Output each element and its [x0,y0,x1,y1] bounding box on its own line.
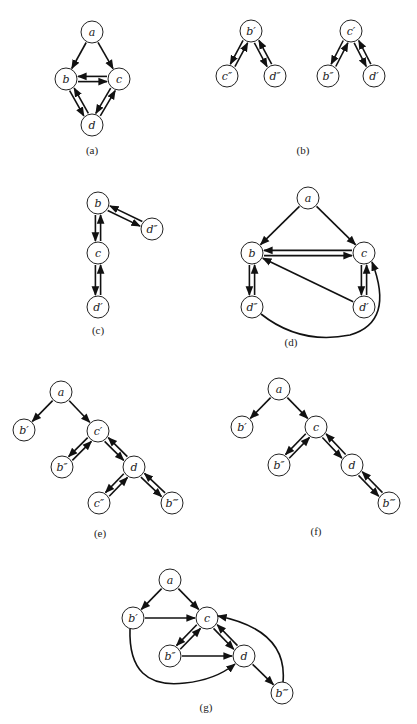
node-label: c [204,612,210,625]
node-label: b′ [19,424,29,437]
node-d1: d′ [87,296,109,318]
node-a: a [268,378,290,400]
node-b2: b″ [159,645,181,667]
edge-a-to-c [98,42,113,68]
edge-d1-to-b [263,258,353,302]
panel-d: abcd″d′(d) [241,187,380,349]
panel-caption: (g) [200,701,213,714]
node-c1: c′ [340,20,362,42]
edge-d-to-b [74,88,88,113]
node-d: d [233,645,255,667]
node-d: d [341,454,363,476]
node-d1: d′ [353,296,375,318]
node-c: c [196,607,218,629]
node-b2: b″ [51,456,73,478]
panel-caption: (e) [94,527,107,540]
edge-c1-to-b2 [331,41,343,65]
panel-caption: (a) [86,144,99,157]
node-c2: c″ [88,492,110,514]
node-label: a [305,192,312,205]
edge-b2-to-c1 [336,43,348,67]
node-label: d″ [246,301,258,314]
panel-caption: (d) [285,336,298,349]
node-label: d″ [269,70,281,83]
node-b3: b‴ [378,492,400,514]
edge-a-to-c1 [69,401,89,423]
edges [130,589,283,685]
node-d: d [123,456,145,478]
panel-g: ab′cb″db‴(g) [122,569,293,714]
node-d2: d″ [141,218,163,240]
node-b2: b″ [317,65,339,87]
panel-caption: (c) [92,324,105,337]
edge-c2-to-b1 [235,43,248,67]
node-label: b″ [164,650,176,663]
node-label: b‴ [383,497,396,510]
node-c: c [305,416,327,438]
node-a: a [81,21,103,43]
node-label: d′ [93,301,103,314]
node-label: a [89,26,96,39]
node-label: b [248,247,255,260]
node-d2: d″ [241,296,263,318]
edge-a-to-c [178,589,198,610]
node-label: c′ [347,25,356,38]
edge-a-to-b1 [141,589,161,610]
panel-c: bd″cd′(c) [87,192,163,337]
node-label: d″ [146,223,158,236]
node-b3: b‴ [271,682,293,704]
node-label: d [130,461,137,474]
edges [230,40,371,66]
node-label: b″ [322,70,334,83]
node-label: b″ [56,461,68,474]
node-label: d [240,650,247,663]
panel-a: abcd(a) [55,21,130,157]
node-a: a [159,569,181,591]
panel-caption: (b) [297,144,310,157]
edge-d-to-b3 [253,664,274,684]
panel-b: b′c″d″c′b″d′(b) [216,20,385,157]
node-label: c [95,247,101,260]
node-b1: b′ [13,419,35,441]
node-label: a [276,383,283,396]
figure-canvas: abcd(a)b′c″d″c′b″d′(b)bd″cd′(c)abcd″d′(d… [0,0,417,724]
edge-b-to-d [70,91,84,116]
edge-b1-to-d2 [254,43,267,67]
node-label: d′ [369,70,379,83]
node-label: b″ [273,459,285,472]
node-b2: b″ [268,454,290,476]
edges [250,398,382,497]
panels-group: abcd(a)b′c″d″c′b″d′(b)bd″cd′(c)abcd″d′(d… [13,20,400,714]
node-b1: b′ [231,416,253,438]
node-b: b [55,68,77,90]
node-label: b [94,197,101,210]
edge-a-to-c [317,206,356,244]
node-label: b′ [246,25,256,38]
node-label: c′ [94,425,103,438]
edge-d2-to-b1 [259,40,272,64]
node-c: c [87,242,109,264]
node-d2: d″ [264,65,286,87]
node-label: c [313,421,319,434]
edge-a-to-b1 [32,401,52,422]
node-label: d [88,119,95,132]
node-label: a [58,386,65,399]
node-a: a [50,381,72,403]
node-label: c″ [94,497,105,510]
edge-a-to-c [287,398,307,419]
node-label: b‴ [166,497,179,510]
node-label: c [116,73,122,86]
edge-a-to-b [72,43,86,69]
node-b: b [241,242,263,264]
node-c2: c″ [216,65,238,87]
node-c: c [353,242,375,264]
node-label: d [348,459,355,472]
node-b3: b‴ [161,492,183,514]
panel-caption: (f) [311,525,322,538]
edge-a-to-b [261,206,300,244]
node-label: b‴ [276,687,289,700]
node-d1: d′ [363,65,385,87]
node-label: c [361,247,367,260]
node-a: a [297,187,319,209]
edge-a-to-b1 [250,398,270,419]
